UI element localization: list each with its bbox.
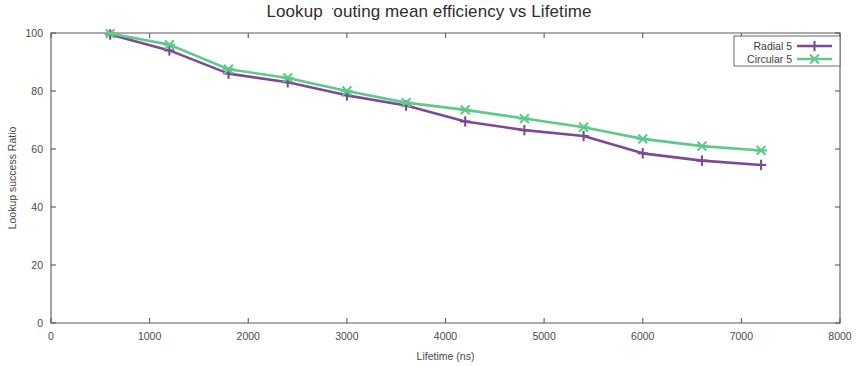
y-tick-label: 100 [25, 27, 43, 39]
x-tick-label: 3000 [335, 330, 359, 342]
series-circular-5 [104, 29, 767, 155]
y-tick-label: 60 [31, 143, 43, 155]
y-axis-title: Lookup success Ratio [6, 126, 18, 229]
chart-legend: Radial 5Circular 5 [734, 36, 840, 66]
chart-ticks [51, 33, 840, 323]
legend-label: Circular 5 [747, 53, 792, 65]
x-tick-label: 8000 [828, 330, 852, 342]
series-radial-5 [105, 29, 766, 170]
x-tick-label: 5000 [532, 330, 556, 342]
chart-axis-titles: Lifetime (ns)Lookup success Ratio [6, 126, 474, 362]
y-tick-label: 20 [31, 259, 43, 271]
chart-series-group [104, 29, 767, 170]
x-tick-label: 2000 [237, 330, 261, 342]
y-tick-label: 0 [37, 317, 43, 329]
chart-container: Lookup routing mean efficiency vs Lifeti… [0, 0, 858, 366]
legend-label: Radial 5 [753, 40, 792, 52]
y-tick-label: 80 [31, 85, 43, 97]
chart-tick-labels: 0100020003000400050006000700080000204060… [25, 27, 851, 343]
x-axis-title: Lifetime (ns) [417, 350, 475, 362]
x-tick-label: 4000 [434, 330, 458, 342]
y-tick-label: 40 [31, 201, 43, 213]
x-tick-label: 0 [48, 330, 54, 342]
x-tick-label: 6000 [631, 330, 655, 342]
chart-axes [51, 33, 840, 323]
line-chart-plot: 0100020003000400050006000700080000204060… [0, 0, 858, 366]
x-tick-label: 1000 [138, 330, 162, 342]
x-tick-label: 7000 [730, 330, 754, 342]
